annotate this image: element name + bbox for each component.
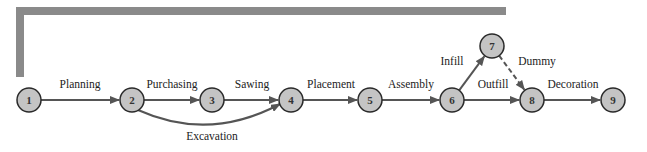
node-4: 4	[279, 88, 303, 112]
svg-text:3: 3	[209, 94, 215, 106]
svg-text:9: 9	[610, 94, 616, 106]
svg-text:2: 2	[129, 94, 135, 106]
edge-label-dummy: Dummy	[518, 55, 556, 68]
node-9: 9	[601, 88, 625, 112]
edge-label-planning: Planning	[60, 78, 101, 91]
svg-text:8: 8	[529, 94, 535, 106]
edge-label-infill: Infill	[441, 55, 464, 67]
edge-label-placement: Placement	[307, 78, 356, 90]
node-7: 7	[480, 34, 504, 58]
edge-label-outfill: Outfill	[478, 78, 509, 90]
svg-text:7: 7	[489, 40, 495, 52]
edge-label-decoration: Decoration	[547, 78, 598, 90]
node-3: 3	[200, 88, 224, 112]
node-2: 2	[120, 88, 144, 112]
node-1: 1	[17, 88, 41, 112]
svg-text:1: 1	[26, 94, 32, 106]
node-6: 6	[440, 88, 464, 112]
svg-text:6: 6	[449, 94, 455, 106]
node-8: 8	[520, 88, 544, 112]
edge-label-excavation: Excavation	[186, 130, 238, 142]
svg-text:5: 5	[367, 94, 373, 106]
edge-label-assembly: Assembly	[388, 78, 434, 91]
edge-label-sawing: Sawing	[235, 78, 270, 91]
edge-label-purchasing: Purchasing	[146, 78, 197, 91]
node-5: 5	[358, 88, 382, 112]
svg-text:4: 4	[288, 94, 294, 106]
network-diagram: PlanningPurchasingSawingExcavationPlacem…	[0, 0, 647, 152]
